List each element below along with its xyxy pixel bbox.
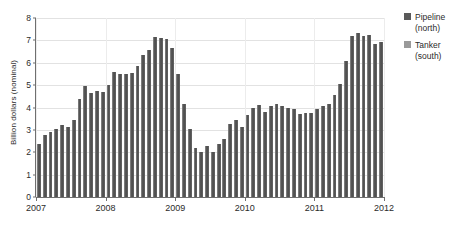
bar <box>153 37 157 197</box>
bar <box>379 42 383 198</box>
bar <box>89 93 93 197</box>
y-tick-label: 3 <box>26 125 31 135</box>
bar <box>304 113 308 197</box>
bar <box>141 55 145 197</box>
bar <box>286 108 290 198</box>
bar <box>112 72 116 197</box>
x-tick-mark <box>36 197 37 201</box>
bar-slot <box>378 18 384 197</box>
bar-series-pipeline-north <box>36 18 384 197</box>
y-tick-label: 5 <box>26 80 31 90</box>
bar <box>228 124 232 197</box>
x-tick-label: 2010 <box>235 203 255 213</box>
y-tick-mark <box>33 85 36 86</box>
x-tick-label: 2012 <box>374 203 394 213</box>
y-tick-label: 4 <box>26 103 31 113</box>
bar <box>194 148 198 197</box>
bar <box>72 120 76 197</box>
bar <box>362 36 366 197</box>
x-tick-mark <box>314 197 315 201</box>
bar <box>321 106 325 197</box>
bar <box>136 66 140 197</box>
legend-swatch-pipeline-icon <box>404 13 411 20</box>
x-tick-mark <box>175 197 176 201</box>
bar <box>130 73 134 197</box>
bar <box>165 39 169 197</box>
bar <box>269 106 273 197</box>
y-tick-mark <box>33 40 36 41</box>
bar <box>356 33 360 197</box>
bar <box>344 61 348 197</box>
bar <box>118 74 122 197</box>
x-axis-line <box>36 197 384 198</box>
bar <box>222 139 226 197</box>
y-tick-mark <box>33 152 36 153</box>
y-axis-title: Billion dollars (nominal) <box>9 28 18 178</box>
legend-swatch-tanker-icon <box>404 41 411 48</box>
x-tick-mark <box>245 197 246 201</box>
x-tick-label: 2008 <box>96 203 116 213</box>
bar <box>275 104 279 197</box>
x-tick-mark <box>384 197 385 201</box>
bar <box>263 112 267 197</box>
bar <box>182 104 186 197</box>
x-tick-label: 2009 <box>165 203 185 213</box>
bar <box>333 95 337 197</box>
y-tick-mark <box>33 174 36 175</box>
bar <box>199 152 203 197</box>
chart-legend: Pipeline (north) Tanker (south) <box>404 12 466 68</box>
bar <box>350 36 354 197</box>
bar <box>211 152 215 197</box>
bar <box>327 104 331 197</box>
x-tick-label: 2011 <box>305 203 324 213</box>
y-tick-label: 6 <box>26 58 31 68</box>
y-tick-mark <box>33 62 36 63</box>
plot-area: 012345678 <box>36 18 384 197</box>
year-separator <box>384 18 385 197</box>
legend-label-pipeline: Pipeline (north) <box>415 12 466 33</box>
bar <box>315 109 319 197</box>
bar <box>251 108 255 198</box>
bar <box>95 91 99 197</box>
bar <box>298 114 302 197</box>
bar <box>240 127 244 197</box>
bar <box>43 135 47 197</box>
bar <box>66 127 70 197</box>
bar <box>147 50 151 197</box>
bar <box>292 109 296 197</box>
bar <box>60 125 64 197</box>
bar <box>83 86 87 197</box>
bar <box>107 85 111 197</box>
bar <box>280 106 284 197</box>
y-tick-label: 2 <box>26 147 31 157</box>
bar <box>101 92 105 197</box>
y-tick-mark <box>33 129 36 130</box>
bar <box>246 115 250 197</box>
bar <box>159 38 163 197</box>
bar <box>176 74 180 197</box>
bar <box>170 48 174 197</box>
bar <box>124 74 128 197</box>
x-tick-mark <box>106 197 107 201</box>
bar <box>37 144 41 197</box>
bar <box>257 105 261 197</box>
y-tick-mark <box>33 18 36 19</box>
bar <box>373 44 377 197</box>
y-tick-label: 8 <box>26 13 31 23</box>
legend-label-tanker: Tanker (south) <box>415 40 466 61</box>
bar <box>217 144 221 197</box>
bar <box>78 99 82 197</box>
y-tick-label: 0 <box>26 192 31 202</box>
bar <box>188 129 192 197</box>
bar <box>309 113 313 197</box>
bar-chart: Billion dollars (nominal) 012345678 Pipe… <box>0 0 466 226</box>
bar <box>49 132 53 197</box>
legend-item-pipeline: Pipeline (north) <box>404 12 466 33</box>
legend-item-tanker: Tanker (south) <box>404 40 466 61</box>
bar <box>205 146 209 197</box>
bar <box>367 35 371 197</box>
bar <box>234 120 238 197</box>
y-tick-label: 7 <box>26 35 31 45</box>
bar <box>338 84 342 197</box>
y-tick-label: 1 <box>26 170 31 180</box>
